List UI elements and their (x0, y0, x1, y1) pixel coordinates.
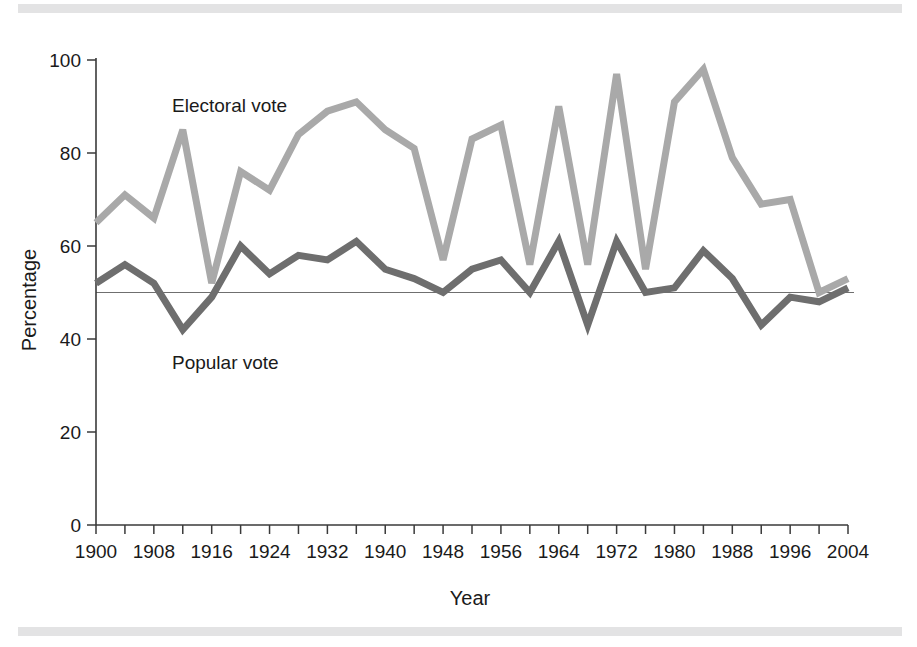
y-tick-label: 0 (70, 515, 81, 536)
x-tick-label: 1972 (595, 541, 637, 562)
y-tick-label: 20 (60, 422, 81, 443)
x-tick-label: 1988 (711, 541, 753, 562)
x-tick-label: 1908 (133, 541, 175, 562)
electoral-vote-annotation: Electoral vote (172, 95, 287, 116)
y-tick-label: 40 (60, 329, 81, 350)
x-tick-label: 1956 (480, 541, 522, 562)
line-chart: 020406080100 190019081916192419321940194… (0, 0, 917, 647)
x-tick-label: 1948 (422, 541, 464, 562)
x-axis: 1900190819161924193219401948195619641972… (75, 525, 870, 562)
x-axis-title: Year (450, 587, 491, 609)
x-tick-label: 1924 (248, 541, 291, 562)
y-tick-label: 100 (49, 50, 81, 71)
x-tick-label: 1932 (306, 541, 348, 562)
x-tick-label: 1996 (769, 541, 811, 562)
x-tick-label: 1916 (191, 541, 233, 562)
y-axis: 020406080100 (49, 50, 96, 536)
x-tick-label: 1964 (538, 541, 581, 562)
y-tick-label: 60 (60, 236, 81, 257)
popular-vote-annotation: Popular vote (172, 352, 279, 373)
figure-container: 020406080100 190019081916192419321940194… (0, 0, 917, 647)
x-tick-label: 1900 (75, 541, 117, 562)
y-tick-label: 80 (60, 143, 81, 164)
y-axis-title: Percentage (18, 249, 40, 351)
x-tick-label: 1940 (364, 541, 406, 562)
x-tick-label: 1980 (653, 541, 695, 562)
x-tick-label: 2004 (827, 541, 870, 562)
